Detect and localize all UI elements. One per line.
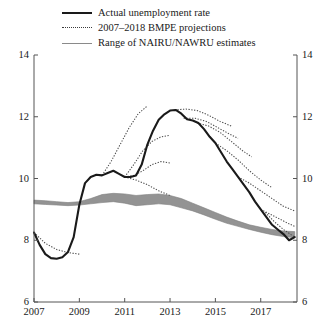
y-tick-label-left: 8	[24, 234, 29, 245]
chart-plot-area	[0, 0, 326, 335]
actual-unemployment-line	[34, 110, 295, 259]
x-tick-label: 2013	[157, 306, 183, 317]
y-tick-label-left: 10	[19, 173, 30, 184]
x-tick-label: 2009	[66, 306, 92, 317]
x-tick-label: 2017	[248, 306, 274, 317]
x-tick-label: 2007	[21, 306, 47, 317]
y-tick-label-left: 14	[19, 49, 30, 60]
y-tick-label-right: 14	[302, 49, 313, 60]
y-tick-label-right: 10	[302, 173, 313, 184]
x-tick-label: 2015	[202, 306, 228, 317]
y-tick-label-right: 6	[302, 296, 307, 307]
unemployment-chart-figure: Actual unemployment rate 2007–2018 BMPE …	[0, 0, 326, 335]
x-tick-label: 2011	[112, 306, 138, 317]
nairu-range-band	[34, 193, 295, 237]
y-tick-label-left: 12	[19, 111, 30, 122]
bmpe-projection-lines	[34, 106, 295, 254]
chart-axes	[34, 55, 297, 302]
y-tick-label-right: 12	[302, 111, 313, 122]
y-tick-label-right: 8	[302, 234, 307, 245]
